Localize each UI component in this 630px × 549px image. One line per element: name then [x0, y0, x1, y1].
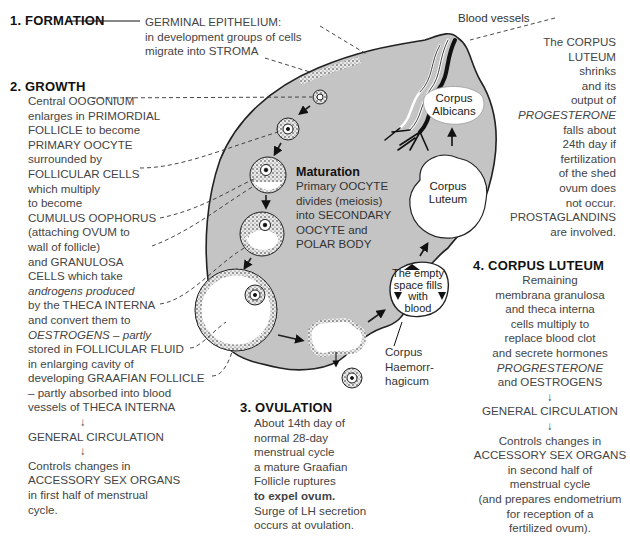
ovulation-line: a mature Graafian — [254, 460, 366, 475]
formation-line: GERMINAL EPITHELIUM: — [145, 15, 302, 30]
maturation-heading: Maturation — [296, 165, 391, 179]
growth-circulation: GENERAL CIRCULATION — [28, 430, 205, 445]
growth-line: CUMULUS OOPHORUS — [28, 211, 205, 226]
regression-line: The CORPUS — [510, 35, 616, 50]
corpus-luteum-line: Remaining — [470, 273, 630, 288]
growth-line: – partly absorbed into blood — [28, 386, 205, 401]
maturation-line: Primary OOCYTE — [296, 179, 391, 194]
empty-space-label: The empty space fills with blood — [388, 268, 448, 314]
label-line: Luteum — [420, 193, 476, 206]
corpus-haemorrhagicum-label: Corpus Haemorr- hagicum — [385, 345, 434, 389]
corpus-luteum-line: PROGRESTERONE — [470, 361, 630, 376]
regression-line: PROGESTERONE — [510, 108, 616, 123]
growth-line: enlarges in PRIMORDIAL — [28, 109, 205, 124]
growth-line: androgens produced — [28, 284, 205, 299]
maturation-line: OOCYTE and — [296, 223, 391, 238]
growth-line: wall of follicle) — [28, 240, 205, 255]
regression-line: LUTEUM — [510, 50, 616, 65]
maturation-line: POLAR BODY — [296, 237, 391, 252]
growth-line: Central OOGONIUM — [28, 94, 205, 109]
ovulation-line: to expel ovum. — [254, 489, 366, 504]
label-line: Corpus — [420, 180, 476, 193]
corpus-luteum-controls-line: in second half of — [470, 463, 630, 478]
maturation-line: into SECONDARY — [296, 208, 391, 223]
corpus-luteum-line: and secrete hormones — [470, 346, 630, 361]
growth-line: stored in FOLLICULAR FLUID — [28, 342, 205, 357]
corpus-luteum-controls-line: menstrual cycle — [470, 477, 630, 492]
growth-line: and GRANULOSA — [28, 255, 205, 270]
growth-controls-line: cycle. — [28, 503, 205, 518]
ovulation-line: occurs at ovulation. — [254, 518, 366, 533]
formation-line: migrate into STROMA — [145, 44, 302, 59]
growth-line: surrounded by — [28, 152, 205, 167]
growth-line: (attaching OVUM to — [28, 225, 205, 240]
ovulation-line: Follicle ruptures — [254, 474, 366, 489]
corpus-luteum-controls-line: ACCESSORY SEX ORGANS — [470, 448, 630, 463]
ovulation-heading: 3. OVULATION — [240, 400, 332, 415]
growth-line: by the THECA INTERNA — [28, 298, 205, 313]
corpus-luteum-line: replace blood clot — [470, 331, 630, 346]
growth-line: in enlarging cavity of — [28, 357, 205, 372]
growth-line: OESTROGENS – partly — [28, 328, 205, 343]
ovulation-text: About 14th day of normal 28-day menstrua… — [254, 416, 366, 533]
regression-line: shrinks — [510, 64, 616, 79]
label-line: blood — [388, 303, 448, 315]
regression-line: PROSTAGLANDINS — [510, 210, 616, 225]
label-line: hagicum — [385, 374, 434, 389]
regression-line: are involved. — [510, 225, 616, 240]
growth-line: developing GRAAFIAN FOLLICLE — [28, 371, 205, 386]
corpus-luteum-controls-line: fertilized ovum). — [470, 521, 630, 536]
label-line: Albicans — [426, 105, 482, 118]
corpus-luteum-line: membrana granulosa — [470, 288, 630, 303]
regression-line: fertilization — [510, 152, 616, 167]
label-line: Corpus — [385, 345, 434, 360]
regression-line: ovum does — [510, 181, 616, 196]
regression-text: The CORPUS LUTEUM shrinks and its output… — [510, 35, 616, 239]
maturation-block: Maturation Primary OOCYTE divides (meios… — [296, 165, 391, 252]
growth-line: vessels of THECA INTERNA — [28, 400, 205, 415]
regression-line: of the shed — [510, 166, 616, 181]
corpus-luteum-line: and theca interna — [470, 302, 630, 317]
corpus-luteum-circulation: GENERAL CIRCULATION — [470, 404, 630, 419]
corpus-luteum-controls-line: for reception of a — [470, 507, 630, 522]
formation-line: in development groups of cells — [145, 30, 302, 45]
regression-line: not occur. — [510, 196, 616, 211]
down-arrow-icon: ↓ — [470, 390, 630, 405]
label-line: Haemorr- — [385, 360, 434, 375]
growth-line: FOLLICLE to become — [28, 123, 205, 138]
corpus-luteum-controls-line: Controls changes in — [470, 434, 630, 449]
ovulation-line: normal 28-day — [254, 431, 366, 446]
maturation-line: divides (meiosis) — [296, 194, 391, 209]
growth-controls-line: in first half of menstrual — [28, 488, 205, 503]
down-arrow-icon: ↓ — [28, 444, 205, 459]
growth-line: CELLS which take — [28, 269, 205, 284]
growth-line: to become — [28, 196, 205, 211]
blood-vessels-label: Blood vessels — [458, 11, 530, 26]
growth-controls-line: Controls changes in — [28, 459, 205, 474]
corpus-luteum-line: and OESTROGENS — [470, 375, 630, 390]
label-line: with — [388, 291, 448, 303]
growth-line: FOLLICULAR CELLS — [28, 167, 205, 182]
growth-controls-line: ACCESSORY SEX ORGANS — [28, 473, 205, 488]
regression-line: and its — [510, 79, 616, 94]
corpus-luteum-controls-line: (and prepares endometrium — [470, 492, 630, 507]
corpus-luteum-line: cells multiply to — [470, 317, 630, 332]
growth-line: which multiply — [28, 182, 205, 197]
down-arrow-icon: ↓ — [28, 415, 205, 430]
regression-line: output of — [510, 93, 616, 108]
corpus-albicans-label: Corpus Albicans — [426, 92, 482, 118]
formation-text: GERMINAL EPITHELIUM: in development grou… — [145, 15, 302, 59]
corpus-luteum-text: Remaining membrana granulosa and theca i… — [470, 273, 630, 536]
growth-text: Central OOGONIUM enlarges in PRIMORDIAL … — [28, 94, 205, 517]
formation-heading: 1. FORMATION — [10, 13, 105, 28]
corpus-luteum-label: Corpus Luteum — [420, 180, 476, 206]
corpus-luteum-heading: 4. CORPUS LUTEUM — [473, 258, 604, 273]
ovulation-line: Surge of LH secretion — [254, 504, 366, 519]
growth-heading: 2. GROWTH — [10, 79, 85, 94]
growth-line: PRIMARY OOCYTE — [28, 138, 205, 153]
ovulation-line: menstrual cycle — [254, 445, 366, 460]
ovulation-line: About 14th day of — [254, 416, 366, 431]
regression-line: falls about — [510, 123, 616, 138]
label-line: Corpus — [426, 92, 482, 105]
regression-line: 24th day if — [510, 137, 616, 152]
